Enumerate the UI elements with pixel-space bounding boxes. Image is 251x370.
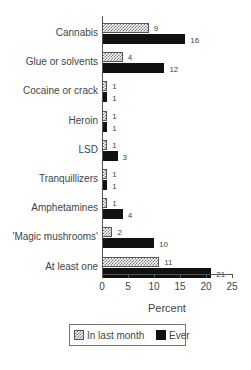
x-tick-mark — [128, 274, 129, 278]
value-label-last-month: 1 — [112, 112, 116, 121]
x-tick-mark — [232, 274, 233, 278]
value-label-last-month: 1 — [112, 82, 116, 91]
legend-label-month: In last month — [87, 330, 144, 341]
category-label: At least one — [45, 261, 98, 272]
category-label: LSD — [79, 144, 98, 155]
x-tick-label: 10 — [144, 281, 164, 292]
x-tick-mark — [206, 274, 207, 278]
value-label-ever: 12 — [169, 65, 178, 74]
category-label: Cannabis — [56, 27, 98, 38]
x-tick-label: 5 — [118, 281, 138, 292]
value-label-ever: 16 — [190, 36, 199, 45]
category-label: Glue or solvents — [26, 56, 98, 67]
x-tick-mark — [154, 274, 155, 278]
x-axis-label: Percent — [148, 302, 186, 314]
value-label-last-month: 11 — [164, 258, 172, 267]
x-tick-label: 0 — [92, 281, 112, 292]
category-label: Cocaine or crack — [23, 85, 98, 96]
x-tick-label: 15 — [170, 281, 190, 292]
value-label-ever: 1 — [112, 182, 116, 191]
legend-swatch-ever — [156, 330, 166, 340]
bar-ever — [102, 268, 211, 278]
category-label: Heroin — [69, 115, 98, 126]
legend-label-ever: Ever — [169, 330, 190, 341]
value-label-ever: 1 — [112, 94, 116, 103]
value-label-last-month: 9 — [154, 24, 158, 33]
value-label-ever: 3 — [123, 153, 127, 162]
x-tick-mark — [102, 274, 103, 278]
value-label-last-month: 1 — [112, 199, 116, 208]
category-label: Amphetamines — [31, 202, 98, 213]
x-tick-mark — [180, 274, 181, 278]
x-tick-label: 25 — [222, 281, 242, 292]
legend-swatch-month — [74, 330, 84, 340]
legend: In last month Ever — [69, 324, 186, 346]
value-label-last-month: 4 — [128, 53, 132, 62]
x-tick-label: 20 — [196, 281, 216, 292]
value-label-last-month: 1 — [112, 141, 116, 150]
value-label-ever: 4 — [128, 211, 132, 220]
bar-last-month — [102, 23, 149, 33]
bar-ever — [102, 151, 118, 161]
bar-ever — [102, 34, 185, 44]
x-axis-line — [102, 274, 232, 275]
bar-ever — [102, 63, 164, 73]
value-label-ever: 1 — [112, 124, 116, 133]
bar-last-month — [102, 227, 112, 237]
category-label: 'Magic mushrooms' — [12, 231, 98, 242]
bar-ever — [102, 209, 123, 219]
bar-last-month — [102, 52, 123, 62]
value-label-last-month: 1 — [112, 170, 116, 179]
bar-last-month — [102, 257, 159, 267]
y-axis-line — [102, 16, 103, 274]
value-label-ever: 10 — [159, 240, 168, 249]
bar-ever — [102, 238, 154, 248]
category-label: Tranquillizers — [39, 173, 98, 184]
value-label-last-month: 2 — [117, 228, 121, 237]
drug-use-bar-chart: Cannabis916Glue or solvents412Cocaine or… — [0, 0, 251, 370]
